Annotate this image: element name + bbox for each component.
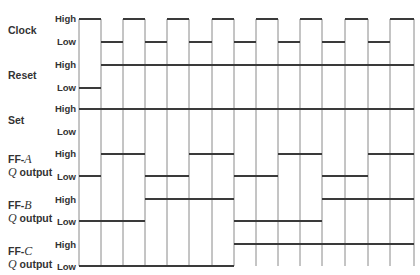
reset-high-label: High xyxy=(46,59,76,70)
signal-label-set: Set xyxy=(8,114,24,127)
ff-b-low-label: Low xyxy=(46,216,76,227)
clock-low-label: Low xyxy=(46,36,76,47)
ff-c-high-label: High xyxy=(46,239,76,250)
ff-b-q: Q xyxy=(8,211,17,225)
clock-high-label: High xyxy=(46,13,76,24)
set-high-label: High xyxy=(46,103,76,114)
signal-label-reset: Reset xyxy=(8,69,37,82)
ff-b-var: B xyxy=(24,198,31,212)
clock-label-text: Clock xyxy=(8,24,37,36)
ff-c-low-label: Low xyxy=(46,261,76,272)
signal-label-clock: Clock xyxy=(8,24,37,37)
ff-c-q: Q xyxy=(8,257,17,271)
ff-b-prefix: FF- xyxy=(8,199,24,211)
reset-label-text: Reset xyxy=(8,69,37,81)
timing-diagram: Clock Reset Set FF-A Q output FF-B Q out… xyxy=(0,0,420,275)
ff-a-prefix: FF- xyxy=(8,153,24,165)
ff-a-high-label: High xyxy=(46,148,76,159)
set-label-text: Set xyxy=(8,114,24,126)
ff-c-var: C xyxy=(24,244,32,258)
ff-a-low-label: Low xyxy=(46,171,76,182)
ff-a-q: Q xyxy=(8,165,17,179)
reset-low-label: Low xyxy=(46,82,76,93)
ff-c-prefix: FF- xyxy=(8,245,24,257)
set-low-label: Low xyxy=(46,126,76,137)
ff-a-var: A xyxy=(24,152,31,166)
ff-b-high-label: High xyxy=(46,194,76,205)
